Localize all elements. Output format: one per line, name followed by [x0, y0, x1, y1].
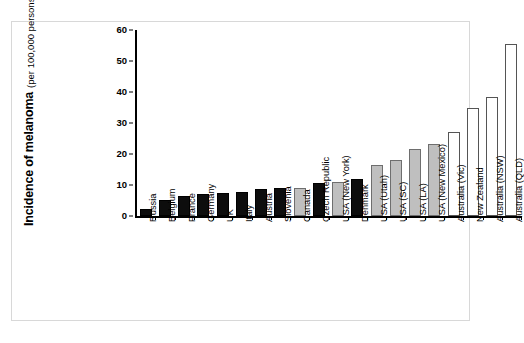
- y-axis-line: [135, 30, 137, 217]
- y-axis-tick-mark: [129, 154, 133, 155]
- x-axis-tick-label: USA (New Mexico): [438, 144, 447, 222]
- y-axis-tick-mark: [129, 216, 133, 217]
- x-axis-tick-label: Germany: [207, 184, 216, 222]
- x-axis-tick-label: UK: [226, 209, 235, 222]
- x-axis-tick-label: Denmark: [361, 184, 370, 222]
- x-axis-tick-label: USA (LA): [419, 183, 428, 222]
- y-axis-tick-label: 60: [116, 25, 127, 35]
- y-axis-tick-mark: [129, 92, 133, 93]
- x-axis-tick-label: Australia (QLD): [515, 158, 524, 222]
- y-axis-tick-label: 30: [116, 118, 127, 128]
- x-axis-tick-label: France: [188, 193, 197, 222]
- y-axis-tick-mark: [129, 123, 133, 124]
- x-axis-tick-label: Slovenia: [284, 186, 293, 222]
- x-axis-tick-label: Italy: [245, 205, 254, 222]
- y-axis-tick-label: 0: [122, 211, 127, 221]
- x-axis-tick-label: USA (Utah): [380, 175, 389, 222]
- plot-area: 0102030405060 RussiaBelgiumFranceGermany…: [74, 26, 459, 212]
- y-axis-tick-mark: [129, 30, 133, 31]
- chart-container: Incidence of melanoma (per 100,000 perso…: [11, 21, 470, 321]
- x-axis-tick-label: USA (SC): [399, 182, 408, 222]
- y-axis-tick-mark: [129, 61, 133, 62]
- y-axis-title-main: Incidence of melanoma: [22, 92, 36, 226]
- y-axis-ticks: 0102030405060: [74, 26, 136, 216]
- y-axis-title-units: (per 100,000 persons-years): [25, 0, 36, 88]
- x-axis-tick-label: Australia (Vic): [457, 164, 466, 222]
- x-axis-tick-label: New Zealand: [476, 167, 485, 222]
- x-axis-tick-label: Russia: [149, 194, 158, 222]
- x-axis-tick-label: Belgium: [168, 188, 177, 222]
- x-axis-tick-label: Austria: [265, 193, 274, 222]
- y-axis-tick-label: 20: [116, 149, 127, 159]
- y-axis-tick-label: 40: [116, 87, 127, 97]
- y-axis-title: Incidence of melanoma (per 100,000 perso…: [14, 0, 44, 197]
- x-axis-tick-label: Canada: [303, 189, 312, 222]
- x-axis-tick-label: USA (New York): [342, 155, 351, 222]
- x-axis-tick-label: Czech Republic: [322, 157, 331, 222]
- x-axis-tick-label: Australia (NSW): [496, 155, 505, 222]
- y-axis-tick-label: 10: [116, 180, 127, 190]
- y-axis-tick-label: 50: [116, 56, 127, 66]
- y-axis-tick-mark: [129, 185, 133, 186]
